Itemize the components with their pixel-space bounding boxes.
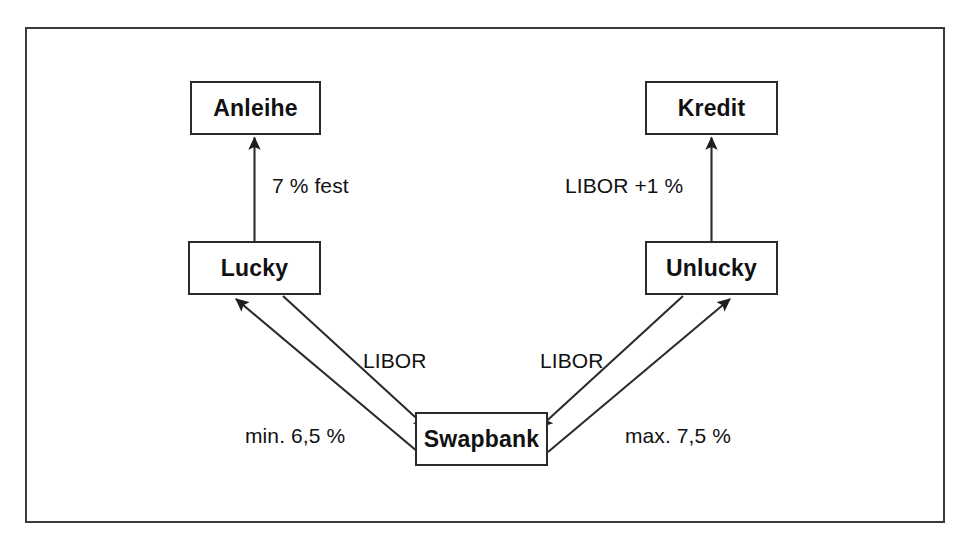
node-kredit-label: Kredit (678, 95, 746, 122)
node-swapbank-label: Swapbank (424, 426, 539, 453)
edge-label-libor-left: LIBOR (363, 349, 427, 373)
node-unlucky-label: Unlucky (666, 255, 757, 282)
node-swapbank[interactable]: Swapbank (415, 412, 548, 466)
node-unlucky[interactable]: Unlucky (645, 241, 778, 295)
node-kredit[interactable]: Kredit (645, 81, 778, 135)
edge-label-libor-right: LIBOR (540, 349, 604, 373)
edge-label-min-6-5-percent: min. 6,5 % (245, 424, 345, 448)
diagram-canvas: Anleihe Kredit Lucky Unlucky Swapbank 7 … (0, 0, 970, 542)
node-lucky-label: Lucky (221, 255, 288, 282)
edge-label-libor-plus-1-percent: LIBOR +1 % (565, 174, 683, 198)
node-lucky[interactable]: Lucky (188, 241, 321, 295)
node-anleihe-label: Anleihe (213, 95, 297, 122)
edge-label-max-7-5-percent: max. 7,5 % (625, 424, 731, 448)
node-anleihe[interactable]: Anleihe (190, 81, 321, 135)
edge-label-7-percent-fest: 7 % fest (272, 174, 349, 198)
